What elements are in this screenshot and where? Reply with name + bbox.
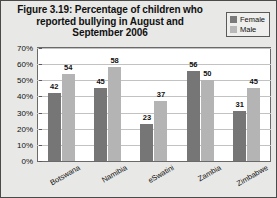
legend-item-male: Male: [230, 25, 265, 34]
x-axis-labels: BotswanaNamibiaeSwatiniZambiaZimbabwe: [37, 163, 271, 197]
bar-value-label: 42: [50, 82, 58, 91]
x-axis-label-zambia: Zambia: [196, 163, 222, 183]
bar-groups: 42544558233756503145: [38, 48, 270, 161]
legend-label-female: Female: [240, 15, 265, 24]
legend-item-female: Female: [230, 15, 265, 24]
bar-value-label: 58: [110, 56, 118, 65]
x-axis-label-eswatini: eSwatini: [146, 163, 175, 185]
x-axis-label-zimbabwe: Zimbabwe: [235, 163, 269, 188]
y-axis-tick-label: 50%: [0, 76, 33, 85]
y-axis-tick-label: 10%: [0, 140, 33, 149]
y-axis-tick-label: 70%: [0, 44, 33, 53]
bar-group: 4558: [94, 48, 121, 161]
bar-male-eswatini[interactable]: 37: [154, 101, 167, 161]
bar-value-label: 45: [96, 77, 104, 86]
y-axis-tick-mark: [39, 96, 42, 97]
y-axis-tick-mark: [39, 48, 42, 49]
y-axis-tick-mark: [39, 145, 42, 146]
x-axis-label-namibia: Namibia: [100, 163, 128, 185]
y-axis-tick-label: 20%: [0, 124, 33, 133]
y-axis-tick-mark: [39, 80, 42, 81]
bar-group: 3145: [233, 48, 260, 161]
bar-male-zimbabwe[interactable]: 45: [247, 88, 260, 161]
bar-female-zimbabwe[interactable]: 31: [233, 111, 246, 161]
bar-female-eswatini[interactable]: 23: [140, 124, 153, 161]
bar-value-label: 56: [189, 60, 197, 69]
bar-value-label: 37: [157, 90, 165, 99]
y-axis-tick-mark: [39, 113, 42, 114]
bar-value-label: 45: [250, 77, 258, 86]
figure-title: Figure 3.19: Percentage of children who …: [15, 4, 205, 39]
x-axis-label-botswana: Botswana: [49, 163, 82, 187]
y-axis-tick-label: 30%: [0, 108, 33, 117]
plot-area: 42544558233756503145: [37, 47, 271, 162]
y-axis-tick-label: 40%: [0, 92, 33, 101]
bar-female-zambia[interactable]: 56: [187, 71, 200, 161]
y-axis-tick-mark: [39, 161, 42, 162]
legend-swatch-icon-female: [230, 16, 237, 23]
bar-value-label: 31: [236, 100, 244, 109]
y-axis-tick-label: 60%: [0, 60, 33, 69]
bar-male-zambia[interactable]: 50: [201, 80, 214, 161]
bar-male-botswana[interactable]: 54: [62, 74, 75, 161]
figure-container: Figure 3.19: Percentage of children who …: [0, 0, 277, 198]
legend-swatch-icon-male: [230, 26, 237, 33]
bar-female-namibia[interactable]: 45: [94, 88, 107, 161]
bar-value-label: 54: [64, 63, 72, 72]
chart-legend: Female Male: [226, 12, 270, 37]
bar-female-botswana[interactable]: 42: [48, 93, 61, 161]
y-axis-tick-mark: [39, 129, 42, 130]
bar-group: 4254: [48, 48, 75, 161]
y-axis-tick-label: 0%: [0, 157, 33, 166]
y-axis-tick-mark: [39, 64, 42, 65]
legend-label-male: Male: [240, 25, 256, 34]
bar-value-label: 23: [143, 113, 151, 122]
bar-group: 2337: [140, 48, 167, 161]
bar-male-namibia[interactable]: 58: [108, 67, 121, 161]
bar-value-label: 50: [203, 69, 211, 78]
bar-group: 5650: [187, 48, 214, 161]
